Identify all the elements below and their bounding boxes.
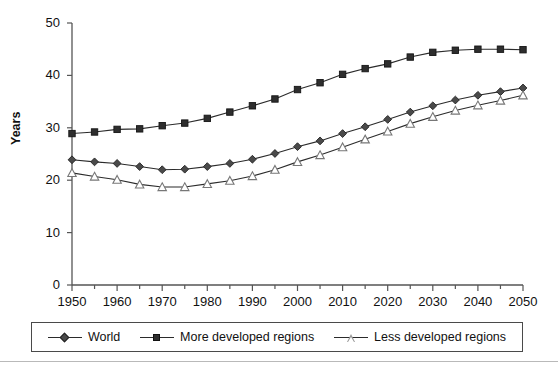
x-axis-tick-label: 2030: [410, 295, 456, 308]
data-point-square: [69, 130, 75, 136]
data-point-square: [204, 115, 210, 121]
x-axis-tick-label: 2040: [455, 295, 501, 308]
y-axis-tick-label: 0: [28, 278, 60, 291]
data-point-square: [362, 65, 368, 71]
median-age-line-chart-figure: Years 01020304050 1950196019701980199020…: [0, 0, 558, 369]
x-axis-tick-label: 2020: [365, 295, 411, 308]
data-point-diamond: [136, 163, 144, 171]
data-point-diamond: [68, 156, 76, 164]
chart-legend: WorldMore developed regionsLess develope…: [31, 322, 523, 352]
x-axis-tick-label: 2000: [275, 295, 321, 308]
x-axis-tick-label: 1950: [49, 295, 95, 308]
x-axis-tick-label: 2010: [320, 295, 366, 308]
data-point-diamond: [384, 116, 392, 124]
data-point-diamond: [158, 166, 166, 174]
y-axis-tick-label: 20: [28, 173, 60, 186]
data-point-square: [407, 54, 413, 60]
series-more-developed-regions: [69, 46, 526, 137]
x-axis-tick-label: 1970: [139, 295, 185, 308]
data-point-diamond: [181, 165, 189, 173]
data-point-square: [159, 123, 165, 129]
x-axis-tick-label: 1990: [229, 295, 275, 308]
data-point-diamond: [474, 91, 482, 99]
data-point-square: [339, 71, 345, 77]
square-marker-icon: [153, 334, 160, 341]
data-point-diamond: [226, 160, 234, 168]
data-point-diamond: [203, 163, 211, 171]
chart-plot-area: Years 01020304050 1950196019701980199020…: [0, 0, 558, 310]
legend-item-less-developed-regions[interactable]: Less developed regions: [334, 330, 506, 344]
data-point-square: [520, 47, 526, 53]
data-point-triangle: [519, 91, 527, 99]
y-axis-tick-label: 50: [28, 16, 60, 29]
data-point-square: [452, 47, 458, 53]
data-point-square: [91, 129, 97, 135]
data-point-square: [317, 80, 323, 86]
y-axis-tick-label: 30: [28, 121, 60, 134]
data-point-triangle: [68, 169, 76, 177]
legend-line-sample: [140, 331, 174, 343]
data-point-diamond: [451, 96, 459, 104]
chart-svg-canvas: [0, 0, 558, 310]
data-point-triangle: [316, 151, 324, 159]
legend-line-sample: [334, 331, 368, 343]
footer-divider: [0, 361, 558, 362]
data-point-triangle: [338, 143, 346, 151]
data-point-diamond: [361, 123, 369, 131]
x-axis-tick-label: 1980: [184, 295, 230, 308]
data-point-square: [249, 103, 255, 109]
data-point-square: [430, 49, 436, 55]
x-axis-tick-label: 1960: [94, 295, 140, 308]
diamond-marker-icon: [59, 333, 69, 343]
series-less-developed-regions: [68, 91, 527, 190]
data-point-diamond: [113, 160, 121, 168]
data-point-diamond: [294, 143, 302, 151]
data-point-triangle: [271, 166, 279, 174]
data-point-square: [182, 120, 188, 126]
data-point-square: [385, 61, 391, 67]
y-axis-tick-label: 10: [28, 226, 60, 239]
legend-item-more-developed-regions[interactable]: More developed regions: [140, 330, 314, 344]
data-point-square: [272, 96, 278, 102]
data-point-diamond: [339, 130, 347, 138]
data-point-square: [136, 126, 142, 132]
data-point-square: [497, 46, 503, 52]
legend-line-sample: [48, 331, 82, 343]
legend-label: Less developed regions: [374, 330, 506, 344]
triangle-marker-icon: [347, 334, 355, 342]
data-point-triangle: [361, 135, 369, 143]
data-point-diamond: [249, 155, 257, 163]
data-point-diamond: [429, 102, 437, 110]
data-point-diamond: [91, 158, 99, 166]
data-point-square: [475, 46, 481, 52]
legend-label: More developed regions: [180, 330, 314, 344]
data-point-triangle: [384, 127, 392, 135]
y-axis-tick-label: 40: [28, 68, 60, 81]
legend-item-world[interactable]: World: [48, 330, 120, 344]
x-axis-tick-label: 2050: [500, 295, 546, 308]
data-point-diamond: [316, 137, 324, 145]
data-point-square: [227, 109, 233, 115]
data-point-diamond: [406, 108, 414, 116]
legend-label: World: [88, 330, 120, 344]
data-point-square: [114, 126, 120, 132]
data-point-diamond: [497, 88, 505, 96]
data-point-diamond: [271, 150, 279, 158]
data-point-square: [294, 86, 300, 92]
